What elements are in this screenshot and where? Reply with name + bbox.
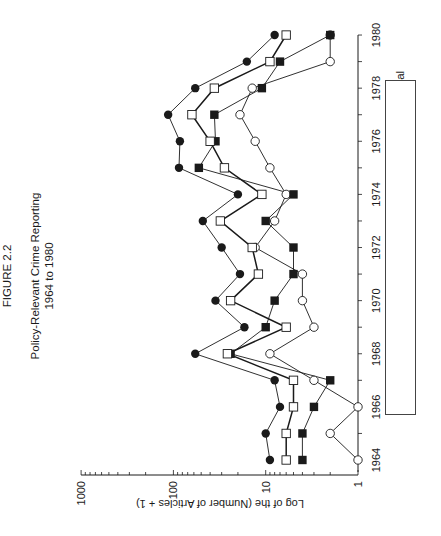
data-point	[310, 376, 318, 384]
data-point	[310, 323, 318, 331]
data-point	[266, 350, 274, 358]
data-point	[282, 31, 290, 39]
data-point	[248, 243, 256, 251]
data-point	[226, 296, 234, 304]
data-point	[270, 296, 278, 304]
figure-label: FIGURE 2.2	[0, 126, 14, 426]
data-point	[262, 429, 270, 437]
data-point	[262, 323, 270, 331]
data-point	[266, 164, 274, 172]
data-point	[282, 323, 290, 331]
value-axis-label: Log of the (Number of Articles + 1)	[136, 498, 304, 510]
data-point	[236, 111, 244, 119]
data-point	[191, 84, 199, 92]
data-point	[298, 270, 306, 278]
data-point	[248, 84, 256, 92]
legend-box	[385, 80, 416, 415]
crime-reporting-chart: 1101001000 19641966196819701972197419761…	[0, 0, 441, 536]
year-tick-label: 1970	[370, 288, 382, 312]
data-point	[266, 456, 274, 464]
data-point	[262, 217, 270, 225]
year-tick-label: 1964	[370, 448, 382, 472]
data-point	[326, 31, 334, 39]
year-tick-label: 1972	[370, 235, 382, 259]
series-points-total	[164, 31, 284, 464]
data-point	[276, 57, 284, 65]
data-point	[164, 111, 172, 119]
data-point	[206, 137, 214, 145]
data-point	[236, 270, 244, 278]
data-point	[199, 217, 207, 225]
value-tick-label: 1000	[75, 481, 87, 505]
data-point	[234, 190, 242, 198]
data-point	[289, 376, 297, 384]
data-point	[270, 217, 278, 225]
data-point	[289, 270, 297, 278]
data-point	[195, 164, 203, 172]
data-point	[191, 350, 199, 358]
data-point	[210, 111, 218, 119]
data-point	[216, 217, 224, 225]
year-tick-label: 1968	[370, 342, 382, 366]
data-point	[354, 403, 362, 411]
data-point	[354, 456, 362, 464]
series-points-critical	[188, 31, 298, 464]
year-tick-label: 1974	[370, 182, 382, 206]
data-point	[270, 376, 278, 384]
series-lines	[168, 35, 358, 460]
data-point	[298, 296, 306, 304]
data-point	[266, 57, 274, 65]
data-point	[298, 429, 306, 437]
value-tick-label: 10	[260, 481, 272, 493]
data-point	[220, 164, 228, 172]
data-point	[289, 243, 297, 251]
series-markers	[164, 31, 362, 464]
year-tick-label: 1978	[370, 76, 382, 100]
data-point	[217, 243, 225, 251]
data-point	[289, 190, 297, 198]
data-point	[251, 137, 259, 145]
data-point	[176, 137, 184, 145]
data-point	[310, 403, 318, 411]
data-point	[258, 190, 266, 198]
data-point	[211, 296, 219, 304]
figure-title: Policy-Relevant Crime Reporting	[28, 126, 42, 426]
data-point	[326, 57, 334, 65]
data-point	[240, 323, 248, 331]
data-point	[282, 456, 290, 464]
data-point	[276, 403, 284, 411]
data-point	[326, 429, 334, 437]
data-point	[282, 190, 290, 198]
figure-subtitle: 1964 to 1980	[42, 126, 56, 426]
data-point	[270, 31, 278, 39]
data-point	[326, 376, 334, 384]
data-point	[210, 84, 218, 92]
data-point	[175, 164, 183, 172]
year-tick-label: 1966	[370, 395, 382, 419]
value-tick-label: 100	[167, 481, 179, 499]
value-tick-label: 1	[352, 481, 364, 487]
year-tick-label: 1976	[370, 129, 382, 153]
data-point	[298, 456, 306, 464]
data-point	[188, 111, 196, 119]
data-point	[254, 270, 262, 278]
data-point	[243, 57, 251, 65]
data-point	[258, 84, 266, 92]
data-point	[223, 350, 231, 358]
data-point	[289, 403, 297, 411]
data-point	[282, 429, 290, 437]
series-points-neutral	[195, 31, 335, 464]
year-tick-label: 1980	[370, 23, 382, 47]
